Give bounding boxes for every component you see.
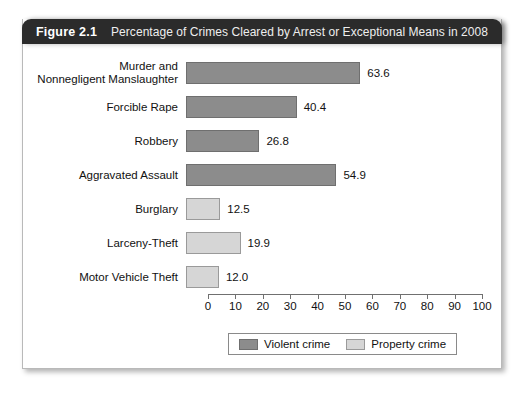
figure-header-bar: Figure 2.1 Percentage of Crimes Cleared … xyxy=(22,19,502,44)
bar-row: Robbery26.8 xyxy=(22,124,502,158)
bar-row: Forcible Rape40.4 xyxy=(22,90,502,124)
axis-tick xyxy=(427,294,428,299)
bar-value-label: 40.4 xyxy=(304,101,326,113)
bar-value-label: 54.9 xyxy=(343,169,365,181)
axis-tick-label: 80 xyxy=(421,300,434,312)
category-label: Aggravated Assault xyxy=(22,169,186,182)
bar-value-label: 63.6 xyxy=(367,67,389,79)
bar-container: 19.9 xyxy=(186,226,502,260)
category-label: Burglary xyxy=(22,203,186,216)
axis-tick xyxy=(263,294,264,299)
axis-tick-label: 60 xyxy=(366,300,379,312)
bar-row: Aggravated Assault54.9 xyxy=(22,158,502,192)
axis-tick xyxy=(482,294,483,299)
axis-tick xyxy=(235,294,236,299)
bar-container: 12.5 xyxy=(186,192,502,226)
bar-container: 12.0 xyxy=(186,260,502,294)
axis-tick xyxy=(318,294,319,299)
bar-row: Murder and Nonnegligent Manslaughter63.6 xyxy=(22,56,502,90)
bar-row: Motor Vehicle Theft12.0 xyxy=(22,260,502,294)
bar-container: 54.9 xyxy=(186,158,502,192)
bar-value-label: 12.5 xyxy=(227,203,249,215)
category-label: Robbery xyxy=(22,135,186,148)
figure-title: Percentage of Crimes Cleared by Arrest o… xyxy=(111,25,488,39)
bar-container: 63.6 xyxy=(186,56,502,90)
axis-tick-label: 100 xyxy=(472,300,491,312)
bar-value-label: 12.0 xyxy=(226,271,248,283)
bar-value-label: 19.9 xyxy=(248,237,270,249)
axis-tick xyxy=(400,294,401,299)
axis-tick-label: 90 xyxy=(448,300,461,312)
bar xyxy=(186,130,259,152)
bar-container: 40.4 xyxy=(186,90,502,124)
legend-item: Property crime xyxy=(346,338,446,350)
category-label: Murder and Nonnegligent Manslaughter xyxy=(22,60,186,86)
figure-number: Figure 2.1 xyxy=(36,25,97,39)
category-label: Motor Vehicle Theft xyxy=(22,271,186,284)
bar-row: Larceny-Theft19.9 xyxy=(22,226,502,260)
bar xyxy=(186,96,297,118)
axis-tick xyxy=(372,294,373,299)
bar-rows: Murder and Nonnegligent Manslaughter63.6… xyxy=(22,56,502,294)
axis-tick xyxy=(208,294,209,299)
axis-tick-label: 10 xyxy=(229,300,242,312)
axis-tick-label: 50 xyxy=(339,300,352,312)
category-label: Forcible Rape xyxy=(22,101,186,114)
legend-item: Violent crime xyxy=(239,338,330,350)
legend-swatch-icon xyxy=(346,339,365,350)
x-axis: 0102030405060708090100 xyxy=(194,294,484,324)
bar-row: Burglary12.5 xyxy=(22,192,502,226)
bar xyxy=(186,266,219,288)
axis-tick xyxy=(455,294,456,299)
bar xyxy=(186,198,220,220)
bar-container: 26.8 xyxy=(186,124,502,158)
axis-tick-label: 70 xyxy=(393,300,406,312)
chart-plot-area: Murder and Nonnegligent Manslaughter63.6… xyxy=(22,44,502,369)
bar-value-label: 26.8 xyxy=(266,135,288,147)
bar xyxy=(186,164,336,186)
legend-label: Violent crime xyxy=(264,338,330,350)
legend-label: Property crime xyxy=(371,338,446,350)
axis-tick xyxy=(290,294,291,299)
axis-tick-label: 30 xyxy=(284,300,297,312)
bar xyxy=(186,62,360,84)
axis-tick-label: 20 xyxy=(256,300,269,312)
bar xyxy=(186,232,241,254)
axis-tick-label: 0 xyxy=(205,300,211,312)
chart-legend: Violent crimeProperty crime xyxy=(228,333,457,355)
legend-swatch-icon xyxy=(239,339,258,350)
axis-tick xyxy=(345,294,346,299)
axis-tick-label: 40 xyxy=(311,300,324,312)
category-label: Larceny-Theft xyxy=(22,237,186,250)
